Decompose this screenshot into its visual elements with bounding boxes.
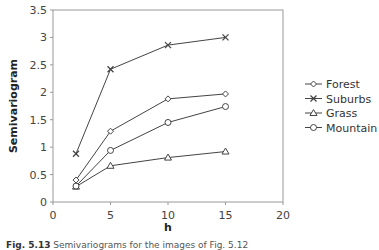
legend-forest-marker-icon [311, 81, 317, 87]
legend-label: Mountain [326, 122, 377, 135]
forest-marker-icon [165, 96, 171, 102]
mountain-marker-icon [165, 119, 171, 125]
series-grass [73, 148, 230, 189]
y-tick-label: 1 [40, 141, 47, 154]
forest-marker-icon [108, 128, 114, 134]
plot-frame [53, 10, 283, 202]
legend-item-grass: Grass [305, 107, 358, 120]
caption-text: Semivariograms for the images of Fig. 5.… [53, 240, 248, 250]
y-axis-label: Semivariogram [7, 59, 20, 153]
data-series [73, 34, 230, 189]
y-tick-label: 0.5 [30, 169, 48, 182]
y-tick-label: 2 [40, 86, 47, 99]
y-tick-label: 2.5 [30, 59, 48, 72]
mountain-marker-icon [223, 104, 229, 110]
caption-label: Fig. 5.13 [6, 240, 50, 250]
x-tick-label: 0 [50, 209, 57, 222]
mountain-marker-icon [108, 147, 114, 153]
legend-label: Grass [326, 107, 358, 120]
series-line-mountain [76, 107, 226, 187]
legend-mountain-marker-icon [311, 125, 317, 131]
y-tick-label: 3.5 [30, 4, 48, 17]
series-mountain [73, 104, 229, 190]
plot-area-border [53, 10, 283, 202]
y-tick-label: 0 [40, 196, 47, 209]
y-axis-ticks: 00.511.522.533.5 [30, 4, 54, 209]
x-tick-label: 15 [219, 209, 233, 222]
legend-label: Forest [326, 78, 360, 91]
y-tick-label: 1.5 [30, 114, 48, 127]
series-line-grass [76, 152, 226, 187]
y-tick-label: 3 [40, 31, 47, 44]
x-axis-label: h [164, 221, 172, 234]
legend-item-suburbs: Suburbs [305, 93, 371, 106]
legend-item-mountain: Mountain [305, 122, 377, 135]
figure-caption: Fig. 5.13 Semivariograms for the images … [6, 240, 248, 250]
x-tick-label: 5 [107, 209, 114, 222]
series-line-forest [76, 94, 226, 180]
legend-item-forest: Forest [305, 78, 360, 91]
forest-marker-icon [223, 91, 229, 97]
legend-label: Suburbs [326, 93, 371, 106]
mountain-marker-icon [73, 183, 79, 189]
x-axis-ticks: 05101520 [50, 202, 291, 222]
x-tick-label: 20 [276, 209, 290, 222]
legend: ForestSuburbsGrassMountain [305, 78, 377, 135]
grass-marker-icon [222, 148, 229, 154]
